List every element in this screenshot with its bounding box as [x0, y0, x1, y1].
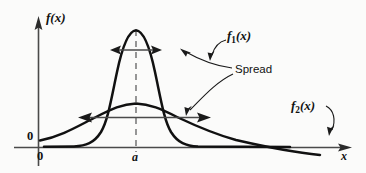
figure-canvas	[0, 0, 366, 173]
leader-f2-label	[326, 106, 334, 130]
leader-spread-to-f2-arrowhead	[184, 106, 191, 116]
spread-annotation-label: Spread	[235, 64, 272, 76]
figure-container: f(x) f1(x) f2(x) Spread 0 0 a x	[0, 0, 366, 173]
origin-label: 0	[37, 150, 43, 163]
leader-spread-to-f2	[190, 74, 233, 110]
x-axis-label: x	[341, 150, 347, 162]
leader-spread-to-f1-arrowhead	[180, 49, 191, 57]
y-axis-zero-label: 0	[27, 130, 33, 143]
curve-f1-label-arg: (x)	[236, 28, 251, 43]
curve-f2-label: f2(x)	[291, 99, 315, 115]
curve-f2-label-arg: (x)	[300, 98, 315, 113]
leader-f2-arrowhead	[327, 126, 334, 136]
leader-f1-label	[212, 40, 226, 55]
x-axis-tick-label-a: a	[132, 151, 138, 163]
y-axis-label: f(x)	[46, 11, 66, 24]
leader-f1-arrowhead	[208, 50, 215, 61]
curve-f1	[44, 30, 290, 147]
curve-f1-label: f1(x)	[227, 29, 251, 45]
